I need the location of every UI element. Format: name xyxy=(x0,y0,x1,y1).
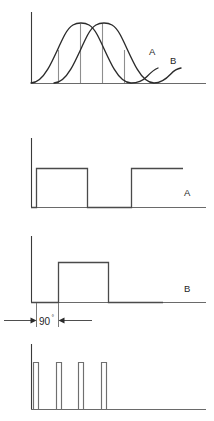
pulse-4 xyxy=(102,363,107,410)
dim-arrow-left-icon xyxy=(31,318,37,324)
sine-curve-a xyxy=(31,23,158,83)
waveform-figure-container: A B A B 90 xyxy=(0,0,214,421)
pulse-1 xyxy=(34,363,39,410)
dim-arrow-right-icon xyxy=(59,318,65,324)
pulse-2 xyxy=(57,363,62,410)
sine-label-b: B xyxy=(170,55,176,66)
square-a-label: A xyxy=(184,187,191,198)
sine-label-a: A xyxy=(149,46,156,57)
phase-value-text: 90 xyxy=(39,316,51,327)
square-b-trace xyxy=(31,263,163,303)
square-a-trace xyxy=(31,169,183,208)
panel-square-wave-b: B xyxy=(31,236,206,303)
panel-sine-waves: A B xyxy=(31,12,206,84)
square-b-label: B xyxy=(184,283,190,294)
panel-pulse-train xyxy=(31,344,206,410)
pulse-3 xyxy=(79,363,84,410)
waveform-diagram: A B A B 90 xyxy=(0,0,214,421)
phase-dimension: 90 ° xyxy=(4,303,92,327)
phase-unit-text: ° xyxy=(52,314,55,321)
panel-square-wave-a: A xyxy=(31,138,206,208)
